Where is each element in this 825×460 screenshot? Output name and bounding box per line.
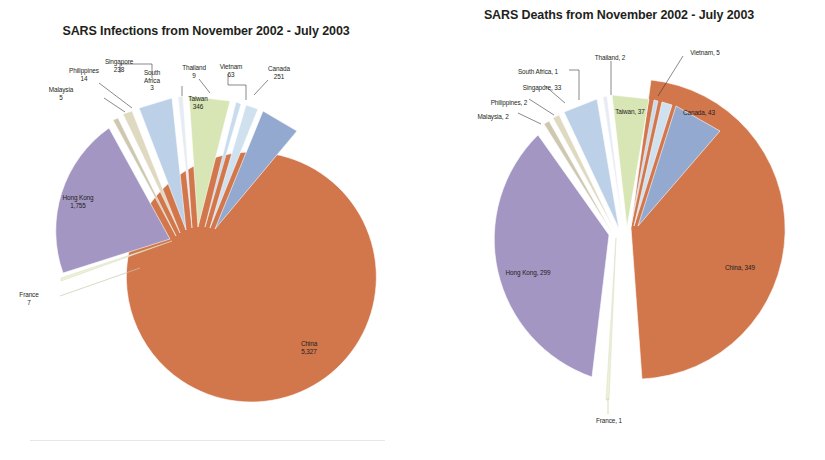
document-page: SARS Infections from November 2002 - Jul…	[0, 0, 825, 460]
slice-label-south-africa: South Africa 3	[144, 69, 160, 92]
slice-label-taiwan: Taiwan, 37	[615, 108, 645, 116]
pie-chart-deaths	[413, 0, 825, 460]
slice-label-thailand: Thailand 9	[182, 64, 206, 79]
slice-label-vietnam: Vietnam, 5	[690, 49, 719, 57]
slice-label-malaysia: Malaysia, 2	[477, 113, 508, 121]
pie-stage-deaths: China, 349 Hong Kong, 299 Taiwan, 37 Can…	[413, 0, 825, 460]
slice-label-china: China, 349	[725, 264, 755, 272]
slice-label-france: France 7	[19, 291, 38, 306]
slice-label-china: China 5,327	[301, 340, 317, 355]
slice-label-philippines: Philippines 14	[69, 67, 99, 82]
slice-label-canada: Canada 251	[268, 65, 290, 80]
slice-label-taiwan: Taiwan 346	[188, 95, 207, 110]
slice-label-malaysia: Malaysia 5	[49, 86, 73, 101]
slice-label-singapore: Singapore, 33	[523, 84, 562, 92]
slice-label-philippines: Philippines, 2	[491, 99, 528, 107]
pie-stage-infections: China 5,327 Hong Kong 1,755 Taiwan 346 C…	[0, 0, 412, 460]
chart-sars-infections: SARS Infections from November 2002 - Jul…	[0, 0, 412, 460]
slice-label-thailand: Thailand, 2	[595, 54, 626, 62]
chart-sars-deaths: SARS Deaths from November 2002 - July 20…	[413, 0, 825, 460]
slice-label-singapore: Singapore 238	[105, 58, 133, 73]
pie-slice-france[interactable]	[606, 238, 616, 400]
slice-label-france: France, 1	[596, 417, 622, 425]
slice-label-hong-kong: Hong Kong, 299	[506, 269, 551, 277]
slice-label-south-africa: South Africa, 1	[518, 68, 558, 76]
slice-label-vietnam: Vietnam 63	[220, 63, 243, 78]
slice-label-canada: Canada, 43	[683, 109, 715, 117]
page-rule-left	[30, 440, 385, 441]
slice-label-hong-kong: Hong Kong 1,755	[62, 194, 93, 209]
pie-slice-china[interactable]	[126, 152, 376, 402]
